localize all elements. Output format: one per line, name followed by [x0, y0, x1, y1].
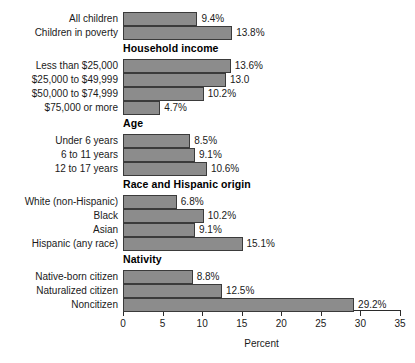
bar-value-label: 9.4% — [201, 13, 224, 25]
bar-category-label: Black — [0, 210, 118, 222]
bar-value-label: 15.1% — [247, 238, 275, 250]
bar — [123, 162, 207, 176]
bar-row: Hispanic (any race)15.1% — [0, 237, 415, 251]
bar-category-label: All children — [0, 13, 118, 25]
group-header: Nativity — [123, 253, 162, 265]
bar-row: Black10.2% — [0, 209, 415, 223]
bar-chart: 05101520253035 Percent All children9.4%C… — [0, 0, 415, 363]
bar-category-label: $75,000 or more — [0, 102, 118, 114]
bar — [123, 195, 177, 209]
x-axis-tick-label: 5 — [160, 318, 166, 330]
x-axis-tick-label: 0 — [120, 318, 126, 330]
bar — [123, 101, 160, 115]
bar-category-label: Asian — [0, 224, 118, 236]
bar-category-label: White (non-Hispanic) — [0, 196, 118, 208]
bar-row: White (non-Hispanic)6.8% — [0, 195, 415, 209]
bar — [123, 237, 243, 251]
bar-row: Children in poverty13.8% — [0, 26, 415, 40]
bar-row: 12 to 17 years10.6% — [0, 162, 415, 176]
x-axis-tick-label: 30 — [355, 318, 366, 330]
bar — [123, 148, 195, 162]
bar-value-label: 9.1% — [199, 149, 222, 161]
x-axis-tick-label: 10 — [197, 318, 208, 330]
bar-row: $50,000 to $74,99910.2% — [0, 87, 415, 101]
x-axis-tick-label: 20 — [276, 318, 287, 330]
bar-row: 6 to 11 years9.1% — [0, 148, 415, 162]
bar-value-label: 12.5% — [226, 285, 254, 297]
bar-value-label: 8.5% — [194, 135, 217, 147]
bar — [123, 87, 204, 101]
group-header: Household income — [123, 42, 219, 54]
x-axis-tick-label: 25 — [315, 318, 326, 330]
bar — [123, 59, 231, 73]
bar — [123, 270, 193, 284]
bar-value-label: 13.0 — [230, 74, 249, 86]
group-header: Race and Hispanic origin — [123, 178, 251, 190]
bar-category-label: Hispanic (any race) — [0, 238, 118, 250]
bar — [123, 298, 354, 312]
bar — [123, 284, 222, 298]
bar-row: Less than $25,00013.6% — [0, 59, 415, 73]
bar-value-label: 13.6% — [235, 60, 263, 72]
x-axis-tick-label: 15 — [236, 318, 247, 330]
bar-category-label: $50,000 to $74,999 — [0, 88, 118, 100]
x-axis-tick-label: 35 — [394, 318, 405, 330]
bar-category-label: Children in poverty — [0, 27, 118, 39]
bar-value-label: 10.2% — [208, 88, 236, 100]
bar — [123, 223, 195, 237]
bar-value-label: 4.7% — [164, 102, 187, 114]
bar-category-label: 12 to 17 years — [0, 163, 118, 175]
bar — [123, 26, 232, 40]
bar — [123, 73, 226, 87]
bar-row: Asian9.1% — [0, 223, 415, 237]
bar-value-label: 29.2% — [358, 299, 386, 311]
bar-row: $25,000 to $49,99913.0 — [0, 73, 415, 87]
bar-category-label: Naturalized citizen — [0, 285, 118, 297]
bar-row: All children9.4% — [0, 12, 415, 26]
bar-value-label: 13.8% — [236, 27, 264, 39]
bar — [123, 209, 204, 223]
bar-category-label: Under 6 years — [0, 135, 118, 147]
bar-category-label: Less than $25,000 — [0, 60, 118, 72]
bar — [123, 12, 197, 26]
bar-category-label: Noncitizen — [0, 299, 118, 311]
x-axis-title: Percent — [123, 338, 400, 350]
bar-row: Noncitizen29.2% — [0, 298, 415, 312]
bar-value-label: 8.8% — [197, 271, 220, 283]
bar-row: $75,000 or more4.7% — [0, 101, 415, 115]
bar-row: Under 6 years8.5% — [0, 134, 415, 148]
bar-row: Native-born citizen8.8% — [0, 270, 415, 284]
bar-value-label: 6.8% — [181, 196, 204, 208]
group-header: Age — [123, 117, 143, 129]
bar — [123, 134, 190, 148]
bar-value-label: 10.6% — [211, 163, 239, 175]
bar-category-label: 6 to 11 years — [0, 149, 118, 161]
bar-category-label: $25,000 to $49,999 — [0, 74, 118, 86]
bar-row: Naturalized citizen12.5% — [0, 284, 415, 298]
bar-value-label: 9.1% — [199, 224, 222, 236]
bar-value-label: 10.2% — [208, 210, 236, 222]
bar-category-label: Native-born citizen — [0, 271, 118, 283]
